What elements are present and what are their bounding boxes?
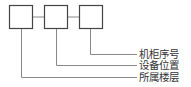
code-box-2 xyxy=(45,6,68,29)
leader-line-floor xyxy=(22,29,138,78)
leader-line-cabinet-number xyxy=(91,29,138,55)
code-box-3 xyxy=(80,6,103,29)
code-structure-diagram: 机柜序号 设备位置 所属楼层 xyxy=(0,0,191,87)
label-floor: 所属楼层 xyxy=(139,71,179,83)
leader-line-device-position xyxy=(57,29,138,66)
code-box-1 xyxy=(10,6,33,29)
label-device-position: 设备位置 xyxy=(139,59,179,71)
